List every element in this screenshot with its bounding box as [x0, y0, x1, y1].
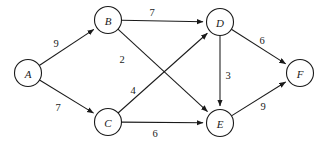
weighted-graph-diagram: ABCDEF 977246369: [0, 0, 331, 148]
graph-edge-b-e: [118, 29, 208, 111]
node-label-d: D: [215, 17, 224, 29]
graph-edge-c-d: [118, 33, 207, 113]
graph-edge-c-e: [122, 122, 204, 123]
graph-node-f: F: [287, 60, 314, 87]
graph-node-d: D: [207, 9, 234, 36]
edge-weight-a-c: 7: [55, 102, 60, 113]
edges-layer: [39, 20, 286, 123]
node-label-c: C: [104, 117, 112, 129]
edge-weight-d-f: 6: [259, 35, 264, 46]
edge-weight-c-d: 4: [130, 85, 136, 96]
edge-weights-layer: 977246369: [53, 7, 265, 139]
edge-weight-e-f: 9: [260, 101, 265, 112]
graph-node-e: E: [207, 110, 234, 137]
node-label-e: E: [216, 118, 224, 130]
graph-edge-e-f: [231, 82, 285, 116]
node-label-f: F: [296, 68, 304, 80]
edge-weight-a-b: 9: [53, 38, 58, 49]
edge-weight-b-e: 2: [119, 54, 124, 65]
graph-canvas: ABCDEF 977246369: [0, 0, 331, 148]
graph-node-b: B: [95, 7, 122, 34]
graph-node-c: C: [95, 109, 122, 136]
edge-weight-c-e: 6: [152, 128, 157, 139]
graph-edge-a-b: [39, 29, 94, 65]
edge-weight-b-d: 7: [149, 7, 154, 18]
graph-edge-a-c: [40, 80, 94, 113]
edge-weight-d-e: 3: [225, 70, 230, 81]
graph-edge-b-d: [122, 20, 204, 21]
graph-node-a: A: [15, 60, 42, 87]
node-label-a: A: [24, 68, 32, 80]
node-label-b: B: [105, 15, 112, 27]
